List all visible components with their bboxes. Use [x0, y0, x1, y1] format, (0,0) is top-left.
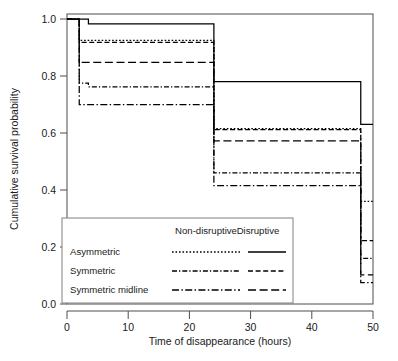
y-tick-label: 0.0: [41, 298, 56, 310]
x-axis-title: Time of disappearance (hours): [149, 335, 292, 347]
x-tick-label: 50: [367, 321, 379, 333]
x-tick-label: 30: [245, 321, 257, 333]
y-tick-label: 1.0: [41, 13, 56, 25]
legend-column-header-disruptive: Disruptive: [237, 225, 280, 236]
legend-column-header-non-disruptive: Non-disruptive: [175, 225, 237, 236]
plot-canvas: 0.00.20.40.60.81.0 01020304050 Time of d…: [0, 0, 398, 361]
y-tick-label: 0.8: [41, 70, 56, 82]
x-axis: 01020304050: [64, 311, 379, 333]
x-tick-label: 0: [64, 321, 70, 333]
x-tick-label: 10: [122, 321, 134, 333]
y-tick-label: 0.4: [41, 184, 56, 196]
y-axis-title: Cumulative survival probability: [8, 87, 20, 230]
legend-row-label: Symmetric midline: [70, 284, 148, 295]
x-tick-label: 20: [184, 321, 196, 333]
survival-curve-figure: 0.00.20.40.60.81.0 01020304050 Time of d…: [0, 0, 398, 361]
x-tick-label: 40: [306, 321, 318, 333]
legend-row-label: Symmetric: [70, 265, 116, 276]
legend-row-label: Asymmetric: [70, 246, 120, 257]
chart-legend: Non-disruptive Disruptive AsymmetricSymm…: [62, 218, 293, 303]
y-tick-label: 0.6: [41, 127, 56, 139]
y-tick-label: 0.2: [41, 241, 56, 253]
